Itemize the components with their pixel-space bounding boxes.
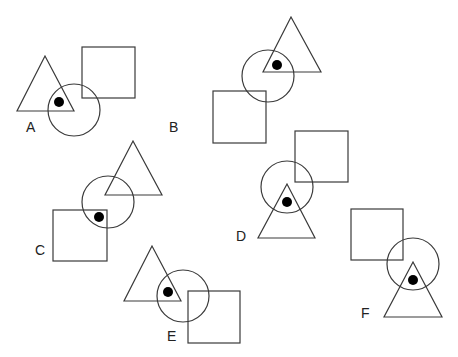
triangle-shape xyxy=(17,56,74,111)
figure-c xyxy=(53,141,162,261)
figure-label-c: C xyxy=(35,243,45,257)
circle-shape xyxy=(82,176,134,228)
figure-d xyxy=(258,131,348,238)
triangle-shape xyxy=(105,141,162,195)
figure-label-e: E xyxy=(167,329,176,343)
triangle-shape xyxy=(263,17,321,72)
circle-shape xyxy=(242,50,294,102)
figure-label-d: D xyxy=(236,229,246,243)
figure-b xyxy=(213,17,321,143)
square-shape xyxy=(351,209,403,260)
square-shape xyxy=(188,291,240,343)
figure-canvas xyxy=(0,0,458,357)
square-shape xyxy=(213,91,266,143)
circle-shape xyxy=(157,270,209,322)
square-shape xyxy=(82,47,135,98)
dot-marker xyxy=(94,212,104,222)
figure-label-b: B xyxy=(169,120,178,134)
square-shape xyxy=(295,131,348,182)
figure-e xyxy=(124,246,240,343)
dot-marker xyxy=(408,275,418,285)
dot-marker xyxy=(54,97,64,107)
dot-marker xyxy=(272,60,282,70)
dot-marker xyxy=(282,197,292,207)
figure-label-a: A xyxy=(26,120,35,134)
dot-marker xyxy=(163,287,173,297)
triangle-shape xyxy=(258,184,315,238)
figure-label-f: F xyxy=(361,306,370,320)
figure-f xyxy=(351,209,442,317)
